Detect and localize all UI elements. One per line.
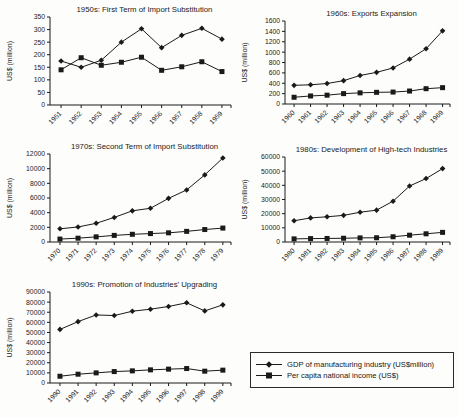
svg-text:200: 200: [269, 90, 281, 97]
svg-text:20000: 20000: [26, 359, 45, 366]
svg-text:1986: 1986: [379, 247, 395, 263]
svg-text:300: 300: [34, 26, 46, 33]
svg-text:2000: 2000: [30, 224, 45, 231]
chart-1960s-canvas: 0200400600800100012001400160019601961196…: [239, 6, 459, 137]
svg-text:1985: 1985: [363, 247, 379, 263]
chart-1980s: 0100002000030000400005000060000198019811…: [239, 142, 459, 275]
chart-1960s: 0200400600800100012001400160019601961196…: [239, 6, 459, 137]
svg-text:1980: 1980: [280, 247, 296, 263]
svg-text:US$ (million): US$ (million): [6, 317, 14, 357]
svg-text:50000: 50000: [26, 329, 45, 336]
svg-text:80000: 80000: [26, 299, 45, 306]
svg-text:90000: 90000: [26, 288, 45, 295]
svg-text:200: 200: [34, 51, 46, 58]
svg-text:US$ (million): US$ (million): [6, 41, 14, 81]
svg-text:50: 50: [37, 89, 45, 96]
chart-1990s-canvas: 0100002000030000400005000060000700008000…: [4, 277, 240, 416]
svg-text:40000: 40000: [261, 182, 280, 189]
chart-1990s: 0100002000030000400005000060000700008000…: [4, 277, 240, 416]
svg-text:1984: 1984: [346, 247, 362, 263]
svg-text:600: 600: [269, 69, 281, 76]
svg-text:1975: 1975: [137, 247, 153, 263]
svg-text:1974: 1974: [118, 247, 134, 263]
svg-text:70000: 70000: [26, 309, 45, 316]
svg-text:60000: 60000: [26, 319, 45, 326]
svg-text:1958: 1958: [188, 110, 204, 126]
svg-text:1966: 1966: [379, 109, 395, 125]
legend-label-income: Per capita national income (US$): [287, 371, 398, 380]
svg-text:1970: 1970: [46, 247, 62, 263]
svg-text:1961: 1961: [297, 109, 313, 125]
svg-text:US$ (million): US$ (million): [241, 42, 249, 82]
svg-text:1994: 1994: [118, 388, 134, 404]
svg-text:6000: 6000: [30, 194, 45, 201]
svg-text:1996: 1996: [155, 388, 171, 404]
svg-text:1988: 1988: [412, 247, 428, 263]
chart-1970s: 0200040006000800010000120001970197119721…: [4, 139, 240, 275]
svg-text:1962: 1962: [313, 109, 329, 125]
svg-text:1998: 1998: [191, 388, 207, 404]
svg-text:10000: 10000: [26, 369, 45, 376]
svg-text:0: 0: [41, 238, 45, 245]
svg-text:1993: 1993: [100, 388, 116, 404]
svg-text:1000: 1000: [265, 49, 280, 56]
svg-text:1990s: Promotion of Industries: 1990s: Promotion of Industries’ Upgradin…: [72, 280, 217, 289]
svg-text:1991: 1991: [64, 388, 80, 404]
svg-text:12000: 12000: [26, 150, 45, 157]
svg-text:1957: 1957: [168, 110, 184, 126]
legend-item-gdp: GDP of manufacturing industry (US$millio…: [255, 360, 449, 369]
svg-text:1969: 1969: [429, 109, 445, 125]
svg-text:1997: 1997: [173, 388, 189, 404]
svg-text:1950s: First Term of Import Su: 1950s: First Term of Import Substitution: [77, 5, 213, 14]
svg-text:1972: 1972: [82, 247, 98, 263]
svg-text:350: 350: [34, 13, 46, 20]
svg-text:60000: 60000: [261, 153, 280, 160]
svg-text:1956: 1956: [148, 110, 164, 126]
svg-text:1992: 1992: [82, 388, 98, 404]
svg-text:1995: 1995: [137, 388, 153, 404]
svg-text:1971: 1971: [64, 247, 80, 263]
svg-text:10000: 10000: [261, 224, 280, 231]
svg-text:1987: 1987: [396, 247, 412, 263]
svg-text:1955: 1955: [128, 110, 144, 126]
svg-text:0: 0: [41, 101, 45, 108]
chart-1980s-canvas: 0100002000030000400005000060000198019811…: [239, 142, 459, 275]
svg-text:1953: 1953: [87, 110, 103, 126]
svg-text:1968: 1968: [412, 109, 428, 125]
svg-text:1960: 1960: [280, 109, 296, 125]
legend: GDP of manufacturing industry (US$millio…: [250, 352, 454, 388]
svg-text:100: 100: [34, 76, 46, 83]
chart-1950s: 0501001502002503003501951195219531954195…: [4, 2, 240, 138]
svg-text:40000: 40000: [26, 339, 45, 346]
svg-text:1982: 1982: [313, 247, 329, 263]
svg-text:1989: 1989: [429, 247, 445, 263]
svg-text:US$ (million): US$ (million): [6, 178, 14, 218]
svg-text:1960s: Exports Expansion: 1960s: Exports Expansion: [326, 9, 417, 18]
svg-text:1964: 1964: [346, 109, 362, 125]
chart-1970s-canvas: 0200040006000800010000120001970197119721…: [4, 139, 240, 275]
legend-item-income: Per capita national income (US$): [255, 371, 449, 380]
svg-text:1954: 1954: [107, 110, 123, 126]
svg-text:10000: 10000: [26, 165, 45, 172]
svg-text:1600: 1600: [265, 17, 280, 24]
svg-text:800: 800: [269, 59, 281, 66]
svg-text:150: 150: [34, 64, 46, 71]
svg-text:1970s: Second Term of Import S: 1970s: Second Term of Import Substitutio…: [71, 142, 218, 151]
svg-text:20000: 20000: [261, 210, 280, 217]
legend-label-gdp: GDP of manufacturing industry (US$millio…: [287, 360, 434, 369]
chart-1950s-canvas: 0501001502002503003501951195219531954195…: [4, 2, 240, 138]
figure-panel: 0501001502002503003501951195219531954195…: [0, 0, 459, 418]
svg-text:1965: 1965: [363, 109, 379, 125]
square-marker-icon: [255, 371, 283, 380]
svg-text:1976: 1976: [155, 247, 171, 263]
svg-text:1200: 1200: [265, 38, 280, 45]
svg-text:0: 0: [276, 238, 280, 245]
svg-text:4000: 4000: [30, 209, 45, 216]
svg-text:1999: 1999: [209, 388, 225, 404]
svg-text:1980s: Development of High-tec: 1980s: Development of High-tech Industri…: [296, 145, 448, 154]
svg-text:1977: 1977: [173, 247, 189, 263]
svg-text:1967: 1967: [396, 109, 412, 125]
svg-text:1990: 1990: [46, 388, 62, 404]
svg-text:1951: 1951: [47, 110, 63, 126]
svg-text:250: 250: [34, 39, 46, 46]
